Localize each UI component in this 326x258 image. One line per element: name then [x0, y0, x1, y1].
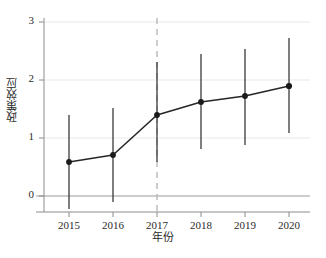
- x-axis-ticks: [69, 212, 289, 217]
- y-tick-label-3: 3: [16, 14, 34, 26]
- y-tick-label-2: 2: [16, 72, 34, 84]
- estimate-line: [69, 86, 289, 162]
- y-axis-ticks: [39, 22, 44, 196]
- data-point-2017: [154, 112, 160, 118]
- data-point-markers: [66, 83, 292, 165]
- x-axis-title: 年份: [0, 228, 326, 244]
- data-point-2018: [198, 99, 204, 105]
- y-tick-label-0: 0: [16, 188, 34, 200]
- data-point-2015: [66, 159, 72, 165]
- data-point-2019: [242, 93, 248, 99]
- y-tick-label-1: 1: [16, 130, 34, 142]
- policy-effect-event-study-chart: 政策效应: [0, 0, 326, 258]
- error-bars: [69, 38, 289, 209]
- data-point-2016: [110, 152, 116, 158]
- y-gridlines: [45, 22, 310, 138]
- data-point-2020: [286, 83, 292, 89]
